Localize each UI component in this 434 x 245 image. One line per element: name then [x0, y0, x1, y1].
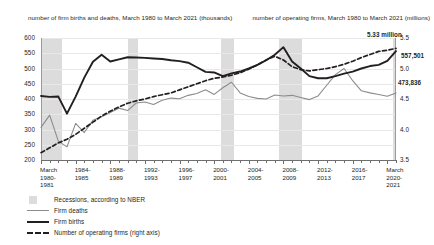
x-axis-label: 2000- 2001 — [213, 166, 229, 181]
left-axis-caption: number of firm births and deaths, March … — [28, 14, 232, 22]
legend-mark-glyph — [27, 221, 49, 223]
left-axis-tick-label: 400 — [9, 95, 35, 102]
legend-item-label: Number of operating firms (right axis) — [54, 229, 160, 236]
right-axis-tick-label: 5.0 — [400, 65, 430, 72]
legend-item-label: Recessions, according to NBER — [54, 196, 145, 203]
x-axis-tickmark — [249, 160, 250, 164]
x-axis-tickmark — [214, 160, 215, 164]
x-axis-tickmark — [327, 160, 328, 163]
left-axis-tick-label: 350 — [9, 110, 35, 117]
series-line-firm-deaths — [41, 69, 396, 147]
annotation-operating-firms-peak: 5.33 million — [367, 31, 402, 38]
x-axis-label: 1988- 1989 — [109, 166, 125, 181]
x-axis-tickmark — [335, 160, 336, 163]
x-axis-label: 1996- 1997 — [179, 166, 195, 181]
right-axis-tick-label: 3.5 — [400, 156, 430, 163]
firm-births-deaths-chart: number of firm births and deaths, March … — [0, 0, 434, 245]
x-axis-tickmark — [136, 160, 137, 163]
x-axis-tickmark — [67, 160, 68, 163]
x-axis-tickmark — [370, 160, 371, 163]
left-axis-tick-label: 450 — [9, 80, 35, 87]
legend-item: Number of operating firms (right axis) — [27, 227, 327, 238]
x-axis-label: March 2020- 2021 — [386, 166, 403, 189]
plot-area — [41, 38, 396, 160]
left-axis-tick-label: 200 — [9, 156, 35, 163]
x-axis-label: 2008- 2009 — [282, 166, 298, 181]
left-axis-tick-label: 600 — [9, 34, 35, 41]
x-axis-tickmark — [379, 160, 380, 163]
series-lines — [41, 38, 396, 160]
legend-mark-glyph — [27, 210, 49, 211]
right-axis-caption: number of operating firms, March 1980 to… — [253, 14, 430, 22]
chart-legend: Recessions, according to NBERFirm deaths… — [27, 194, 327, 238]
x-axis-tickmark — [93, 160, 94, 163]
x-axis-tickmark — [162, 160, 163, 163]
series-line-number-of-operating-firms-right-axis — [41, 48, 396, 152]
series-line-firm-births — [41, 47, 396, 113]
legend-item: Firm deaths — [27, 205, 327, 216]
legend-item: Firm births — [27, 216, 327, 227]
left-axis-tick-label: 550 — [9, 49, 35, 56]
firm-deaths-line-icon — [27, 205, 49, 216]
x-axis-tickmark — [76, 160, 77, 164]
x-axis-tickmark — [50, 160, 51, 163]
legend-mark-glyph — [29, 196, 37, 204]
x-axis-tickmark — [318, 160, 319, 164]
x-axis-label: 2004- 2005 — [248, 166, 264, 181]
x-axis-tickmark — [387, 160, 388, 164]
annotation-firm-deaths-final: 473,836 — [398, 79, 421, 86]
left-axis-tick-label: 250 — [9, 141, 35, 148]
x-axis-tickmark — [266, 160, 267, 163]
x-axis-label: 2016- 2017 — [352, 166, 368, 181]
recession-swatch-icon — [27, 194, 49, 205]
right-axis-tick-label: 4.0 — [400, 126, 430, 133]
x-axis-tickmark — [231, 160, 232, 163]
right-axis-tick-label: 5.5 — [400, 34, 430, 41]
x-axis-tickmark — [110, 160, 111, 164]
x-axis-tickmark — [171, 160, 172, 163]
x-axis-tickmark — [154, 160, 155, 163]
operating-firms-line-icon — [27, 227, 49, 238]
x-axis-tickmark — [41, 160, 42, 164]
x-axis-tickmark — [309, 160, 310, 163]
x-axis-tickmark — [102, 160, 103, 163]
x-axis-tickmark — [58, 160, 59, 163]
x-axis-tickmark — [188, 160, 189, 163]
x-axis-tickmark — [145, 160, 146, 164]
x-axis-tickmark — [275, 160, 276, 163]
x-axis-tickmark — [223, 160, 224, 163]
x-axis-label: March 1980- 1981 — [40, 166, 57, 189]
x-axis-tickmark — [292, 160, 293, 163]
left-axis-tick-label: 500 — [9, 65, 35, 72]
x-axis-label: 1984- 1985 — [75, 166, 91, 181]
x-axis-tickmark — [84, 160, 85, 163]
x-axis-tickmark — [257, 160, 258, 163]
x-axis-tickmark — [361, 160, 362, 163]
legend-item-label: Firm births — [54, 218, 84, 225]
x-axis-tickmark — [119, 160, 120, 163]
x-axis-tickmark — [128, 160, 129, 163]
x-axis-tickmark — [206, 160, 207, 163]
annotation-firm-births-final: 557,501 — [401, 52, 424, 59]
x-axis-tickmark — [180, 160, 181, 164]
x-axis-tickmark — [301, 160, 302, 163]
legend-item-label: Firm deaths — [54, 207, 88, 214]
x-axis-tickmark — [197, 160, 198, 163]
firm-births-line-icon — [27, 216, 49, 227]
x-axis-tickmark — [283, 160, 284, 164]
x-axis-tickmark — [344, 160, 345, 163]
x-axis-label: 2012- 2013 — [317, 166, 333, 181]
legend-mark-glyph — [27, 232, 49, 234]
x-axis-tickmark — [240, 160, 241, 163]
x-axis-tickmark — [353, 160, 354, 164]
x-axis-label: 1992- 1993 — [144, 166, 160, 181]
x-axis-tickmark — [396, 160, 397, 163]
legend-item: Recessions, according to NBER — [27, 194, 327, 205]
right-axis-tick-label: 4.5 — [400, 95, 430, 102]
left-axis-tick-label: 300 — [9, 126, 35, 133]
